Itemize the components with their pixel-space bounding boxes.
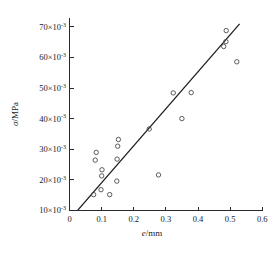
- y-tick-label: 70×10-3: [39, 22, 66, 32]
- x-axis-title: e/mm: [142, 228, 163, 238]
- x-tick-labels: 0 0.1 0.2 0.3 0.4 0.5 0.6: [67, 214, 267, 224]
- y-tick-label-exponent: -3: [61, 22, 66, 28]
- x-tick-label: 0.5: [225, 214, 236, 224]
- data-point: [93, 158, 97, 162]
- x-tick-label: 0.1: [96, 214, 107, 224]
- data-point: [116, 137, 120, 141]
- y-tick-label: 50×10-3: [39, 83, 66, 93]
- y-tick-label-exponent: -3: [61, 83, 66, 89]
- plot-content: [78, 24, 240, 211]
- y-tick-label-exponent: -3: [61, 52, 66, 58]
- data-point: [99, 188, 103, 192]
- y-tick-label-mantissa: 30×10: [39, 144, 61, 154]
- x-axis-ticks: [70, 207, 263, 211]
- x-tick-label: 0.2: [128, 214, 139, 224]
- plot-axes: [69, 18, 262, 211]
- y-axis-title: σ/MPa: [10, 102, 20, 126]
- y-tick-label-mantissa: 20×10: [39, 175, 61, 185]
- data-point: [108, 192, 112, 196]
- regression-line: [78, 24, 240, 211]
- y-tick-label: 20×10-3: [39, 175, 66, 185]
- scatter-points: [91, 28, 239, 196]
- y-tick-label-exponent: -3: [61, 205, 66, 211]
- data-point: [115, 179, 119, 183]
- y-tick-label-mantissa: 40×10: [39, 114, 61, 124]
- y-tick-label-mantissa: 70×10: [39, 22, 61, 32]
- y-tick-label-mantissa: 60×10: [39, 52, 61, 62]
- x-tick-label: 0.3: [161, 214, 172, 224]
- y-tick-label-exponent: -3: [61, 175, 66, 181]
- data-point: [116, 144, 120, 148]
- y-tick-label-exponent: -3: [61, 144, 66, 150]
- y-tick-label: 10×10-3: [39, 205, 66, 215]
- data-point: [189, 90, 193, 94]
- data-point: [222, 44, 226, 48]
- data-point: [100, 168, 104, 172]
- y-axis-ticks: [70, 27, 74, 211]
- x-tick-label: 0: [67, 214, 71, 224]
- y-tick-labels: 10×10-3 20×10-3 30×10-3 40×10-3 50×10-3 …: [39, 22, 66, 216]
- y-tick-label-exponent: -3: [61, 113, 66, 119]
- data-point: [171, 91, 175, 95]
- chart-figure: 10×10-3 20×10-3 30×10-3 40×10-3 50×10-3 …: [0, 0, 275, 257]
- data-point: [100, 174, 104, 178]
- y-tick-label-mantissa: 50×10: [39, 83, 61, 93]
- scatter-plot-svg: 10×10-3 20×10-3 30×10-3 40×10-3 50×10-3 …: [0, 0, 275, 257]
- data-point: [224, 28, 228, 32]
- y-tick-label: 60×10-3: [39, 52, 66, 62]
- data-point: [156, 173, 160, 177]
- data-point: [94, 150, 98, 154]
- y-tick-label: 40×10-3: [39, 113, 66, 123]
- x-tick-label: 0.6: [257, 214, 268, 224]
- data-point: [235, 60, 239, 64]
- y-tick-label: 30×10-3: [39, 144, 66, 154]
- data-point: [115, 157, 119, 161]
- y-tick-label-mantissa: 10×10: [39, 205, 61, 215]
- data-point: [180, 116, 184, 120]
- x-tick-label: 0.4: [193, 214, 204, 224]
